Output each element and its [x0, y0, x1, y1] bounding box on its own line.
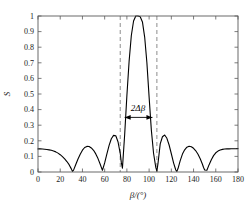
y-tick-label: 0.7 [24, 59, 34, 68]
y-axis-tick-labels: 00.10.20.30.40.50.60.70.80.91 [24, 12, 34, 177]
x-tick-label: 180 [232, 175, 244, 184]
y-tick-label: 0.6 [24, 74, 34, 83]
x-tick-label: 120 [165, 175, 177, 184]
x-tick-label: 100 [143, 175, 155, 184]
x-tick-label: 140 [188, 175, 200, 184]
y-tick-label: 0.3 [24, 121, 34, 130]
chart-canvas: 020406080100120140160180 00.10.20.30.40.… [0, 0, 251, 210]
plot-area-background [38, 16, 238, 172]
y-tick-label: 0.5 [24, 90, 34, 99]
x-tick-label: 60 [101, 175, 109, 184]
x-tick-label: 80 [123, 175, 131, 184]
y-tick-label: 0.4 [24, 105, 34, 114]
x-tick-label: 0 [36, 175, 40, 184]
figure-container: 020406080100120140160180 00.10.20.30.40.… [0, 0, 251, 210]
x-tick-label: 20 [56, 175, 64, 184]
x-tick-label: 160 [210, 175, 222, 184]
y-tick-label: 0.9 [24, 27, 34, 36]
x-axis-tick-labels: 020406080100120140160180 [36, 175, 244, 184]
y-tick-label: 1 [30, 12, 34, 21]
x-tick-label: 40 [78, 175, 86, 184]
beamwidth-label: 2Δβ [131, 103, 146, 113]
y-tick-label: 0.2 [24, 137, 34, 146]
y-axis-title: S [2, 91, 12, 96]
y-tick-label: 0 [30, 168, 34, 177]
x-axis-title: β/(°) [129, 190, 147, 200]
y-tick-label: 0.8 [24, 43, 34, 52]
y-tick-label: 0.1 [24, 152, 34, 161]
